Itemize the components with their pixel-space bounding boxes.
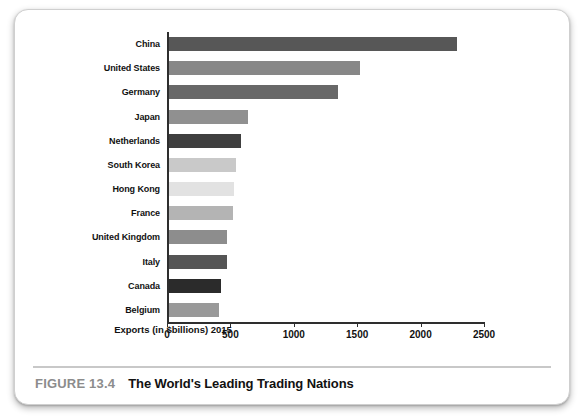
bar <box>169 37 457 51</box>
bar <box>169 61 360 75</box>
x-axis-title: Exports (in $billions) 2015 <box>114 324 232 335</box>
x-tick-label: 2000 <box>409 329 431 340</box>
figure-card: ChinaUnited StatesGermanyJapanNetherland… <box>14 9 570 405</box>
bar <box>169 134 241 148</box>
plot-area: ChinaUnited StatesGermanyJapanNetherland… <box>167 32 497 322</box>
x-tick-label: 1000 <box>283 329 305 340</box>
category-label: Germany <box>122 87 160 97</box>
figure-caption: FIGURE 13.4 The World's Leading Trading … <box>35 376 354 391</box>
category-label: Netherlands <box>109 136 160 146</box>
bar-row: Hong Kong <box>169 182 234 196</box>
bar <box>169 158 236 172</box>
bar <box>169 255 227 269</box>
category-label: Belgium <box>125 305 160 315</box>
bar <box>169 206 233 220</box>
bar <box>169 110 248 124</box>
x-tick <box>294 322 295 327</box>
bar-row: South Korea <box>169 158 236 172</box>
category-label: Italy <box>142 257 160 267</box>
x-tick <box>357 322 358 327</box>
caption-divider <box>33 366 551 368</box>
x-tick-label: 1500 <box>346 329 368 340</box>
bar-row: Italy <box>169 255 227 269</box>
bar-row: France <box>169 206 233 220</box>
category-label: United States <box>104 63 160 73</box>
bar <box>169 303 219 317</box>
bar <box>169 182 234 196</box>
x-tick-label: 2500 <box>473 329 495 340</box>
x-tick <box>484 322 485 327</box>
bar-row: Japan <box>169 110 248 124</box>
category-label: Hong Kong <box>112 184 160 194</box>
bar <box>169 230 227 244</box>
bar-chart: ChinaUnited StatesGermanyJapanNetherland… <box>15 10 570 362</box>
category-label: France <box>131 208 160 218</box>
figure-number: FIGURE 13.4 <box>35 376 115 391</box>
bar-row: Germany <box>169 85 338 99</box>
category-label: Japan <box>134 112 160 122</box>
bar <box>169 279 221 293</box>
bar-row: Netherlands <box>169 134 241 148</box>
category-label: South Korea <box>108 160 160 170</box>
figure-title: The World's Leading Trading Nations <box>128 376 353 391</box>
bar-row: United Kingdom <box>169 230 227 244</box>
category-label: United Kingdom <box>92 232 160 242</box>
category-label: China <box>135 39 160 49</box>
x-tick <box>421 322 422 327</box>
bar-row: China <box>169 37 457 51</box>
bar-row: Canada <box>169 279 221 293</box>
category-label: Canada <box>128 281 160 291</box>
bar <box>169 85 338 99</box>
bar-row: United States <box>169 61 360 75</box>
bar-row: Belgium <box>169 303 219 317</box>
